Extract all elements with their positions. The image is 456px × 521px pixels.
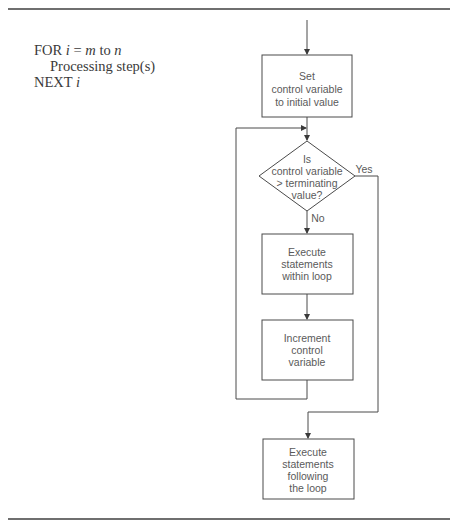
exit-line-1: Execute — [289, 446, 327, 458]
body-line-2: statements — [281, 258, 332, 270]
yes-label: Yes — [355, 163, 372, 175]
init-line-2: control variable — [271, 83, 342, 95]
flowchart: Set control variable to initial value Is… — [0, 0, 456, 521]
increment-line-3: variable — [289, 356, 326, 368]
decision-line-4: value? — [292, 189, 323, 201]
increment-line-1: Increment — [284, 332, 331, 344]
decision-line-1: Is — [303, 153, 311, 165]
decision-line-3: > terminating — [277, 177, 338, 189]
decision-line-2: control variable — [271, 165, 342, 177]
exit-line-2: statements — [282, 458, 333, 470]
increment-line-2: control — [291, 344, 323, 356]
exit-line-4: the loop — [289, 482, 327, 494]
exit-line-3: following — [288, 470, 329, 482]
init-line-3: to initial value — [275, 96, 339, 108]
body-line-1: Execute — [288, 246, 326, 258]
init-line-1: Set — [299, 70, 315, 82]
body-line-3: within loop — [281, 270, 332, 282]
no-label: No — [311, 212, 325, 224]
